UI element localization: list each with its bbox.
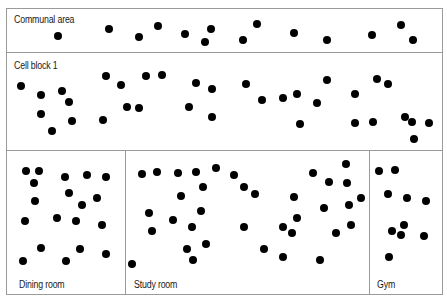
- person-dot-cell-block-1: [99, 116, 107, 124]
- person-dot-gym: [391, 166, 399, 174]
- person-dot-study-room: [148, 227, 156, 235]
- person-dot-cell-block-1: [296, 120, 304, 128]
- person-dot-study-room: [320, 204, 328, 212]
- person-dot-cell-block-1: [323, 76, 331, 84]
- person-dot-cell-block-1: [208, 113, 216, 121]
- person-dot-communal-area: [323, 36, 331, 44]
- person-dot-study-room: [316, 256, 324, 264]
- person-dot-cell-block-1: [123, 103, 131, 111]
- person-dot-cell-block-1: [117, 81, 125, 89]
- zone-label-communal-area: Communal area: [14, 14, 74, 25]
- person-dot-study-room: [202, 240, 210, 248]
- person-dot-gym: [375, 167, 383, 175]
- person-dot-study-room: [345, 201, 353, 209]
- person-dot-dining-room: [22, 167, 30, 175]
- person-dot-study-room: [197, 207, 205, 215]
- person-dot-gym: [397, 231, 405, 239]
- person-dot-dining-room: [21, 217, 29, 225]
- occupancy-floor-plan-diagram: Communal area Cell block 1 Dining room S…: [0, 0, 447, 301]
- person-dot-cell-block-1: [208, 85, 216, 93]
- person-dot-dining-room: [31, 197, 39, 205]
- person-dot-study-room: [188, 223, 196, 231]
- person-dot-communal-area: [253, 20, 261, 28]
- person-dot-dining-room: [62, 257, 70, 265]
- person-dot-study-room: [183, 245, 191, 253]
- person-dot-study-room: [192, 168, 200, 176]
- person-dot-study-room: [240, 183, 248, 191]
- person-dot-study-room: [290, 193, 298, 201]
- person-dot-gym: [400, 221, 408, 229]
- person-dot-study-room: [169, 216, 177, 224]
- person-dot-study-room: [189, 256, 197, 264]
- person-dot-gym: [384, 190, 392, 198]
- person-dot-communal-area: [290, 29, 298, 37]
- person-dot-cell-block-1: [58, 87, 66, 95]
- person-dot-communal-area: [368, 31, 376, 39]
- person-dot-study-room: [199, 183, 207, 191]
- person-dot-study-room: [288, 229, 296, 237]
- person-dot-communal-area: [239, 36, 247, 44]
- person-dot-cell-block-1: [313, 99, 321, 107]
- person-dot-cell-block-1: [408, 118, 416, 126]
- person-dot-dining-room: [98, 221, 106, 229]
- person-dot-gym: [403, 194, 411, 202]
- person-dot-study-room: [153, 168, 161, 176]
- person-dot-cell-block-1: [48, 127, 56, 135]
- person-dot-study-room: [212, 164, 220, 172]
- person-dot-gym: [385, 253, 393, 261]
- person-dot-cell-block-1: [293, 90, 301, 98]
- person-dot-study-room: [279, 253, 287, 261]
- person-dot-cell-block-1: [37, 110, 45, 118]
- person-dot-study-room: [357, 194, 365, 202]
- person-dot-cell-block-1: [158, 71, 166, 79]
- person-dot-study-room: [240, 223, 248, 231]
- person-dot-cell-block-1: [384, 80, 392, 88]
- person-dot-cell-block-1: [351, 119, 359, 127]
- person-dot-study-room: [332, 229, 340, 237]
- person-dot-study-room: [325, 178, 333, 186]
- person-dot-dining-room: [37, 244, 45, 252]
- zone-label-dining-room: Dining room: [19, 279, 65, 290]
- person-dot-study-room: [260, 245, 268, 253]
- person-dot-communal-area: [397, 21, 405, 29]
- person-dot-study-room: [138, 170, 146, 178]
- person-dot-cell-block-1: [68, 117, 76, 125]
- person-dot-study-room: [343, 179, 351, 187]
- person-dot-cell-block-1: [142, 72, 150, 80]
- person-dot-dining-room: [19, 257, 27, 265]
- person-dot-communal-area: [154, 22, 162, 30]
- person-dot-dining-room: [65, 189, 73, 197]
- person-dot-gym: [422, 197, 430, 205]
- person-dot-cell-block-1: [410, 135, 418, 143]
- person-dot-dining-room: [61, 173, 69, 181]
- person-dot-dining-room: [102, 173, 110, 181]
- person-dot-cell-block-1: [279, 94, 287, 102]
- person-dot-cell-block-1: [351, 90, 359, 98]
- person-dot-study-room: [177, 192, 185, 200]
- person-dot-study-room: [145, 209, 153, 217]
- person-dot-dining-room: [78, 201, 86, 209]
- person-dot-cell-block-1: [369, 118, 377, 126]
- person-dot-dining-room: [35, 167, 43, 175]
- zone-study-room: Study room: [125, 150, 370, 295]
- person-dot-dining-room: [30, 179, 38, 187]
- person-dot-communal-area: [409, 36, 417, 44]
- person-dot-dining-room: [93, 194, 101, 202]
- person-dot-communal-area: [105, 25, 113, 33]
- person-dot-study-room: [279, 223, 287, 231]
- zone-label-cell-block-1: Cell block 1: [14, 60, 57, 71]
- person-dot-cell-block-1: [65, 98, 73, 106]
- person-dot-study-room: [347, 221, 355, 229]
- person-dot-dining-room: [53, 214, 61, 222]
- person-dot-cell-block-1: [192, 79, 200, 87]
- person-dot-cell-block-1: [258, 96, 266, 104]
- person-dot-cell-block-1: [425, 119, 433, 127]
- person-dot-study-room: [230, 171, 238, 179]
- person-dot-communal-area: [207, 25, 215, 33]
- zone-communal-area: Communal area: [6, 8, 443, 53]
- person-dot-dining-room: [102, 250, 110, 258]
- person-dot-gym: [388, 227, 396, 235]
- person-dot-dining-room: [72, 217, 80, 225]
- person-dot-cell-block-1: [135, 104, 143, 112]
- person-dot-cell-block-1: [242, 80, 250, 88]
